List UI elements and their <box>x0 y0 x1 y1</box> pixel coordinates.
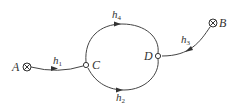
node-a-circled-x-icon <box>23 63 31 71</box>
edge-h4-label: h4 <box>112 8 122 22</box>
edge-h2-label: h2 <box>116 91 126 105</box>
arrow-h4-icon <box>114 22 121 27</box>
edge-h3-label: h3 <box>181 33 191 47</box>
node-d-junction-icon <box>155 53 160 58</box>
node-a-label: A <box>11 60 20 74</box>
node-b-circled-x-icon <box>209 19 217 27</box>
node-d-label: D <box>143 49 153 63</box>
node-b-label: B <box>219 16 227 30</box>
node-c-label: C <box>92 58 101 72</box>
edge-h1 <box>31 66 83 70</box>
node-c-junction-icon <box>83 62 88 67</box>
edge-h1-label: h1 <box>53 54 63 68</box>
flow-network-diagram: A B C D h1 h2 h3 h4 <box>0 0 237 112</box>
